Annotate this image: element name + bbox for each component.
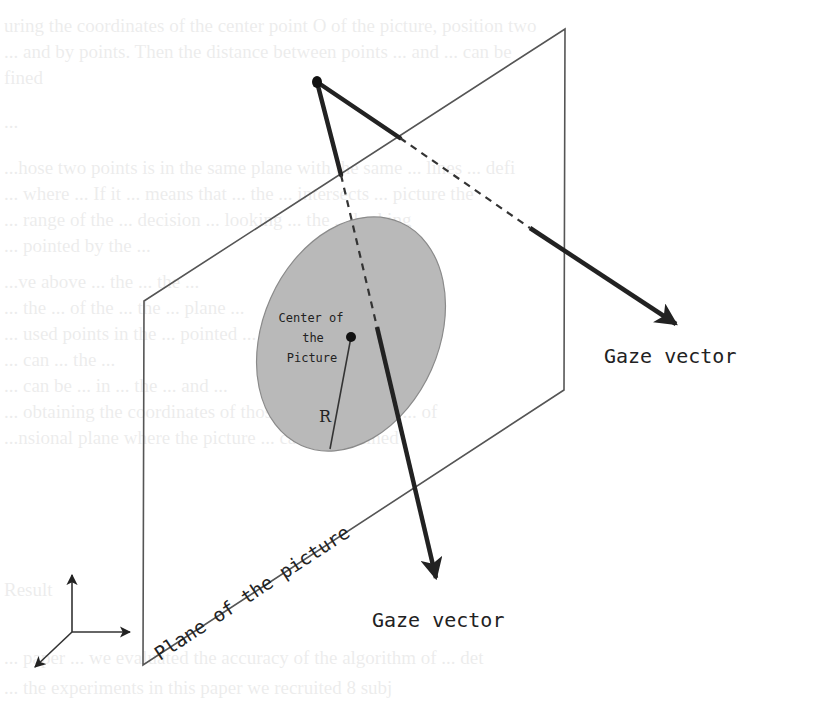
center-point xyxy=(346,332,356,342)
center-label-line2: the xyxy=(302,331,324,345)
center-label-line1: Center of xyxy=(278,311,343,325)
bleed-line: ... the experiments in this paper we rec… xyxy=(4,677,392,698)
bleed-line: ... xyxy=(4,111,18,132)
bleed-line: ... the ... of the ... the ... plane ... xyxy=(4,297,245,318)
bleed-line: fined xyxy=(4,67,44,88)
bleed-line: ... can ... the ... xyxy=(4,349,115,370)
gaze-right-segment-back xyxy=(530,228,676,324)
gaze-vector-label-right: Gaze vector xyxy=(604,344,736,368)
bleed-line: ...ve above ... the ... the ... xyxy=(4,271,199,292)
radius-label: R xyxy=(319,407,332,426)
bleed-line: Result xyxy=(4,579,53,600)
bleed-line: ... paper ... we evaluated the accuracy … xyxy=(4,647,484,668)
bleed-line: uring the coordinates of the center poin… xyxy=(4,15,536,36)
bleed-line: ...hose two points is in the same plane … xyxy=(4,157,515,178)
gaze-vector-label-bottom: Gaze vector xyxy=(372,608,504,632)
eye-point xyxy=(312,76,322,88)
bleed-line: ... can be ... in ... the ... and ... xyxy=(4,375,228,396)
gaze-diagram: uring the coordinates of the center poin… xyxy=(0,0,825,706)
bleed-line: ... and by points. Then the distance bet… xyxy=(4,41,512,62)
plane-label: Plane of the picture xyxy=(150,521,353,665)
bleed-line: ... pointed by the ... xyxy=(4,235,151,256)
center-label-line3: Picture xyxy=(287,351,338,365)
bleed-line: ... where ... If it ... means that ... t… xyxy=(4,183,474,204)
